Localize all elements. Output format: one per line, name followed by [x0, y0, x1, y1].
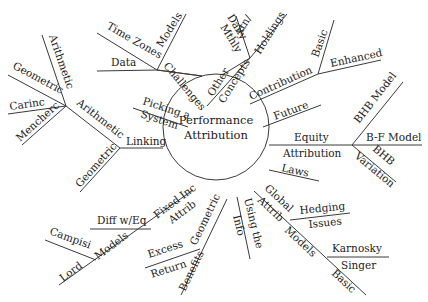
label-contribution-basic: Basic: [309, 28, 330, 59]
label-contribution: Contribution: [247, 63, 314, 102]
label-info: Info: [231, 214, 248, 237]
label-linking: Linking: [126, 135, 167, 147]
label-equity: Equity: [294, 131, 329, 143]
branch-picking-system: Picking a System: [133, 94, 192, 130]
label-campisi: Campisi: [48, 225, 93, 251]
label-laws: Laws: [281, 161, 311, 178]
label-concepts-holdings: Holdings: [252, 9, 288, 56]
branch-global-attrib-models: Global Attrib Models Hedging Issues Karn…: [254, 182, 389, 295]
label-linking-geometric: Geometric: [73, 140, 119, 189]
label-fixed-models: Models: [92, 229, 130, 262]
label-global-singer: Singer: [341, 259, 377, 271]
label-equity-bf-model: B-F Model: [366, 131, 422, 143]
label-diff-w-eq: Diff w/Eq: [97, 214, 147, 226]
label-global-karnosky: Karnosky: [332, 242, 382, 254]
hub-label-line2: Attribution: [183, 128, 249, 142]
label-global-hedging: Hedging: [299, 199, 346, 216]
label-future: Future: [272, 98, 310, 122]
branch-laws: Laws: [269, 161, 319, 181]
branch-future: Future: [263, 98, 321, 127]
label-challenges-models: Models: [154, 10, 185, 49]
label-challenges-data: Data: [111, 56, 136, 68]
label-attribution: Attribution: [282, 147, 342, 159]
performance-attribution-mind-map: Performance Attribution Linking Arithmet…: [0, 0, 428, 302]
label-lord: Lord: [57, 259, 84, 284]
label-global-issues: Issues: [308, 215, 342, 230]
